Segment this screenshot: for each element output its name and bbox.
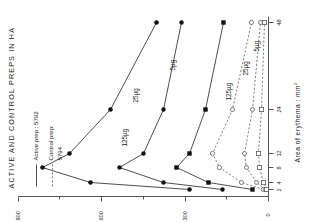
y-tick-0: 0 [264,213,270,216]
y-tick-600: 600 [97,211,103,220]
x-tick-48: 48 [275,19,281,25]
x-tick-2: 2 [275,188,281,191]
y-tick-900: 900 [14,211,20,220]
y-tick-300: 300 [181,211,187,220]
x-tick-12: 12 [275,150,281,156]
y-axis-title-superscript: 2 [292,81,297,84]
series-label-control-125: 125µg [224,82,231,100]
series-label-active-5: 5µg [168,59,175,70]
y-axis-title: Area of erythema : mm2 [292,81,300,162]
series-line-active-125 [42,22,189,189]
legend-label-control-value: 5794 [55,146,62,160]
series-label-control-5: 5µg [252,40,259,51]
x-tick-8: 8 [275,166,281,169]
x-tick-4: 4 [275,181,281,184]
series-markers-active-25 [117,20,224,191]
legend-label-control: Control prep: [46,125,53,160]
x-tick-24: 24 [275,106,281,112]
chart-title: ACTIVE AND CONTROL PREPS IN HA [6,26,15,188]
series-line-active-5 [176,22,252,189]
legend-label-active: Active prep : 5792 [31,111,38,160]
chart-figure: ACTIVE AND CONTROL PREPS IN HA Active pr… [0,0,323,222]
chart-screenshot: ACTIVE AND CONTROL PREPS IN HA Active pr… [0,0,323,222]
series-markers-active-5 [174,20,254,191]
y-axis-title-text: Area of erythema : mm [293,84,300,162]
series-label-active-125: 125µg [120,128,127,146]
series-label-control-25: 25µg [241,61,248,75]
series-label-active-25: 25µg [131,88,138,102]
series-markers-active-125 [40,20,192,192]
